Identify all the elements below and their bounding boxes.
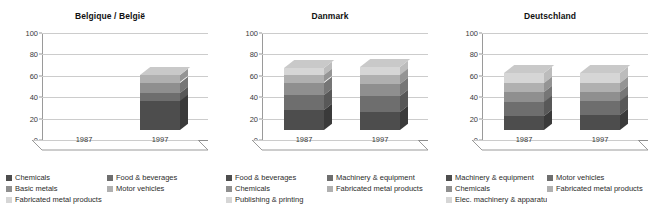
- bar-segment: [360, 67, 400, 76]
- bar-segment: [140, 75, 180, 82]
- legend-swatch-icon: [6, 197, 12, 203]
- y-axis-tick-label: 20: [30, 114, 38, 123]
- legend-item[interactable]: Machinery & equipment: [446, 173, 547, 182]
- legend-item[interactable]: Chemicals: [226, 184, 327, 193]
- y-tick-mark: [39, 54, 42, 55]
- legend-item[interactable]: Fabricated metal products: [547, 184, 658, 193]
- y-axis-tick-label: 100: [465, 29, 478, 38]
- bar-group: 1987: [504, 23, 544, 130]
- legend-item[interactable]: Basic metals: [6, 184, 107, 193]
- legend-item[interactable]: Fabricated metal products: [327, 184, 438, 193]
- x-axis-tick-label: 1987: [496, 135, 552, 144]
- bar-segment: [140, 83, 180, 93]
- bar-segment: [580, 101, 620, 115]
- bar-group: 1997: [580, 23, 620, 130]
- legend-label: Publishing & printing: [235, 195, 303, 204]
- plot-area: 02040608010019871997: [252, 33, 428, 150]
- y-axis-tick-label: 40: [250, 93, 258, 102]
- y-tick-mark: [479, 33, 482, 34]
- x-axis-tick-label: 1997: [572, 135, 628, 144]
- y-axis-tick-label: 40: [470, 93, 478, 102]
- bar-stack: [504, 73, 544, 130]
- bar-segment: [284, 83, 324, 95]
- chart-legend: ChemicalsFood & beveragesBasic metalsMot…: [6, 172, 218, 205]
- bar-segment: [140, 93, 180, 102]
- legend-label: Elec. machinery & apparatus: [455, 195, 547, 204]
- y-axis-tick-label: 80: [250, 50, 258, 59]
- bar-group: 1987: [284, 23, 324, 130]
- plot-area: 02040608010019871997: [472, 33, 648, 150]
- bar-segment: [360, 96, 400, 112]
- bar-group: 1997: [140, 23, 180, 130]
- legend-swatch-icon: [6, 186, 12, 192]
- chart-legend: Machinery & equipmentMotor vehiclesChemi…: [446, 172, 658, 205]
- legend-item[interactable]: Chemicals: [446, 184, 547, 193]
- chart-sheet: Belgique / België02040608010019871997Che…: [0, 0, 660, 215]
- bar-segment: [504, 73, 544, 83]
- legend-item[interactable]: Motor vehicles: [107, 184, 218, 193]
- legend-label: Machinery & equipment: [336, 173, 415, 182]
- legend-swatch-icon: [107, 175, 113, 181]
- legend-item[interactable]: Food & beverages: [107, 173, 218, 182]
- chart-title: Belgique / België: [0, 11, 220, 21]
- chart-panel: Belgique / België02040608010019871997Che…: [0, 0, 220, 215]
- bar-segment: [580, 73, 620, 83]
- y-tick-mark: [259, 118, 262, 119]
- legend-label: Chemicals: [455, 184, 490, 193]
- legend-item[interactable]: Food & beverages: [226, 173, 327, 182]
- y-axis-tick-label: 20: [470, 114, 478, 123]
- chart-title: Danmark: [220, 11, 440, 21]
- bar-segment: [504, 92, 544, 103]
- y-axis-tick-label: 60: [470, 71, 478, 80]
- y-tick-mark: [259, 97, 262, 98]
- bar-segment: [580, 115, 620, 130]
- legend-label: Food & beverages: [235, 173, 296, 182]
- y-tick-mark: [39, 33, 42, 34]
- chart-title: Deutschland: [440, 11, 660, 21]
- legend-item[interactable]: Fabricated metal products: [6, 195, 107, 204]
- legend-item[interactable]: Publishing & printing: [226, 195, 327, 204]
- y-axis-tick-label: 100: [25, 29, 38, 38]
- bar-segment: [284, 95, 324, 110]
- legend-label: Fabricated metal products: [336, 184, 423, 193]
- bar-segment: [504, 83, 544, 92]
- legend-label: Basic metals: [15, 184, 58, 193]
- chart-legend: Food & beveragesMachinery & equipmentChe…: [226, 172, 438, 205]
- y-tick-mark: [39, 75, 42, 76]
- y-axis-tick-label: 20: [250, 114, 258, 123]
- bar-segment: [580, 83, 620, 92]
- chart-panel: Danmark02040608010019871997Food & bevera…: [220, 0, 440, 215]
- x-axis-tick-label: 1997: [132, 135, 188, 144]
- legend-swatch-icon: [327, 175, 333, 181]
- bar-segment: [360, 75, 400, 84]
- legend-item[interactable]: Motor vehicles: [547, 173, 658, 182]
- legend-label: Fabricated metal products: [15, 195, 102, 204]
- legend-swatch-icon: [446, 186, 452, 192]
- bar-segment: [284, 75, 324, 82]
- legend-label: Chemicals: [235, 184, 270, 193]
- y-axis-tick-label: 100: [245, 29, 258, 38]
- legend-item[interactable]: Elec. machinery & apparatus: [446, 195, 547, 204]
- legend-label: Food & beverages: [116, 173, 177, 182]
- bar-group: 1997: [360, 23, 400, 130]
- y-axis-tick-label: 80: [30, 50, 38, 59]
- y-tick-mark: [259, 75, 262, 76]
- bar-segment: [284, 68, 324, 75]
- legend-swatch-icon: [226, 197, 232, 203]
- y-axis-tick-label: 60: [250, 71, 258, 80]
- y-tick-mark: [259, 33, 262, 34]
- legend-label: Motor vehicles: [556, 173, 604, 182]
- bar-segment: [284, 110, 324, 130]
- legend-swatch-icon: [226, 175, 232, 181]
- bar-segment: [504, 116, 544, 130]
- legend-swatch-icon: [547, 186, 553, 192]
- legend-label: Fabricated metal products: [556, 184, 643, 193]
- legend-item[interactable]: Chemicals: [6, 173, 107, 182]
- bar-stack: [360, 67, 400, 130]
- legend-item[interactable]: Machinery & equipment: [327, 173, 438, 182]
- legend-label: Motor vehicles: [116, 184, 164, 193]
- plot-area: 02040608010019871997: [32, 33, 208, 150]
- legend-swatch-icon: [547, 175, 553, 181]
- bar-stack: [140, 75, 180, 130]
- y-tick-mark: [259, 54, 262, 55]
